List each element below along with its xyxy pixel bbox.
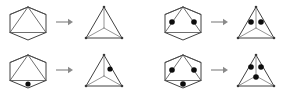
panel-bottom-left	[10, 54, 123, 88]
triangle-vertex-right	[273, 37, 276, 40]
marker-dot-upper-right	[191, 19, 197, 25]
triangle-vertex-top	[255, 54, 258, 57]
source-hexagon-bottom-right	[165, 55, 201, 88]
marker-dot-upper-right	[191, 67, 197, 73]
panel-bottom-right	[165, 54, 275, 88]
marker-dot-center-right	[107, 66, 112, 71]
marker-dot-bottom-center	[180, 81, 186, 87]
marker-dot-center-left	[248, 19, 254, 25]
arrow-head	[223, 67, 228, 73]
marker-dot-upper-left	[169, 67, 175, 73]
arrow-top-right	[211, 19, 228, 25]
arrow-bottom-left	[56, 67, 73, 73]
triangle-vertex-right	[121, 85, 124, 88]
marker-dot-upper-left	[169, 19, 175, 25]
arrow-head	[68, 19, 73, 25]
triangle-vertex-top	[255, 6, 258, 9]
marker-dot-center-left	[248, 64, 254, 70]
arrow-head	[68, 67, 73, 73]
triangle-vertex-top	[103, 6, 106, 9]
triangle-vertex-left	[237, 85, 240, 88]
marker-dot-center-right	[258, 64, 264, 70]
triangle-vertex-right	[273, 85, 276, 88]
marker-dot-center-right	[258, 19, 264, 25]
triangle-vertex-top	[103, 54, 106, 57]
target-triangle-top-right	[237, 6, 276, 40]
arrow-top-left	[56, 19, 73, 25]
source-hexagon-top-left	[10, 7, 46, 40]
arrow-bottom-right	[211, 67, 228, 73]
target-triangle-bottom-left	[85, 54, 124, 88]
panel-top-left	[10, 6, 123, 40]
marker-dot-below-center	[253, 74, 259, 80]
triangle-vertex-left	[85, 85, 88, 88]
triangle-vertex-left	[85, 37, 88, 40]
triangle-vertex-left	[237, 37, 240, 40]
source-hexagon-bottom-left	[10, 55, 46, 88]
target-triangle-top-left	[85, 6, 124, 40]
arrow-head	[223, 19, 228, 25]
target-triangle-bottom-right	[237, 54, 276, 88]
marker-dot-bottom-center	[25, 81, 30, 86]
source-hexagon-top-right	[165, 7, 201, 40]
figure-container	[0, 0, 284, 97]
triangle-vertex-right	[121, 37, 124, 40]
hexagon-triangle-diagram	[0, 0, 284, 97]
panel-top-right	[165, 6, 275, 40]
